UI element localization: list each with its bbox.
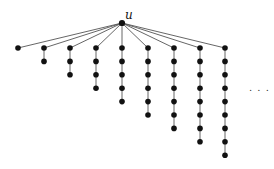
vertex [15,45,21,51]
ellipsis: . . . [249,82,270,93]
vertex [222,59,228,65]
root-edge [122,23,225,48]
vertex [171,112,177,118]
vertex [222,85,228,91]
vertex [197,59,203,65]
vertex [197,85,203,91]
root-edge [18,23,122,48]
tree-diagram: u . . . [0,0,274,169]
vertex [67,59,73,65]
vertex [145,85,151,91]
vertex [222,72,228,78]
vertex [93,72,99,78]
vertex [41,59,47,65]
vertex [171,72,177,78]
vertex [222,99,228,105]
vertex [197,45,203,51]
root-edge [70,23,122,48]
vertex [145,72,151,78]
vertex [197,72,203,78]
vertex [197,139,203,145]
root-label: u [125,8,133,22]
vertex [171,99,177,105]
vertex [171,126,177,132]
vertex [119,85,125,91]
vertex [222,139,228,145]
vertex [197,99,203,105]
vertex [145,45,151,51]
vertex [93,85,99,91]
vertex [93,59,99,65]
vertex [197,126,203,132]
vertex [222,126,228,132]
vertex [41,45,47,51]
vertex [145,99,151,105]
vertex [171,59,177,65]
vertex [119,45,125,51]
vertex [222,45,228,51]
vertex [145,59,151,65]
vertex [119,72,125,78]
vertex [119,59,125,65]
vertex [67,72,73,78]
vertex [145,112,151,118]
vertex [197,112,203,118]
vertex [222,112,228,118]
vertex [222,152,228,158]
vertex [119,99,125,105]
vertex [171,85,177,91]
vertex [93,45,99,51]
vertex [171,45,177,51]
root-edge [122,23,200,48]
vertex [67,45,73,51]
root-edge [44,23,122,48]
root-edge [122,23,174,48]
